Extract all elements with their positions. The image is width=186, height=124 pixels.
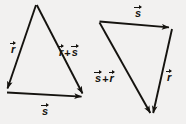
plus-operator: +: [101, 74, 109, 85]
glyph-r: r: [110, 73, 114, 84]
vector-arrow-symbol-s: s: [72, 44, 78, 58]
glyph-s: s: [42, 106, 48, 117]
right-vector-s-plus-r-line: [100, 23, 151, 114]
glyph-r: r: [11, 44, 15, 55]
right-triangle-group: [100, 22, 173, 114]
right-label-vector-r: r: [167, 69, 171, 83]
glyph-s: s: [72, 47, 78, 58]
vector-diagram-canvas: [0, 0, 186, 124]
left-label-vector-r-plus-s: r+s: [59, 44, 78, 58]
right-vector-s-line: [100, 22, 170, 28]
right-label-vector-s-plus-r: s+r: [95, 70, 114, 84]
vector-arrow-symbol-r: r: [167, 69, 171, 83]
left-label-vector-s: s: [42, 103, 48, 117]
glyph-r: r: [167, 72, 171, 83]
glyph-s: s: [135, 8, 141, 19]
vector-arrow-symbol-s: s: [42, 103, 48, 117]
left-label-vector-r: r: [11, 41, 15, 55]
vector-arrow-symbol-r: r: [11, 41, 15, 55]
vector-diagram-figure: r r+s s s s+r r: [0, 0, 186, 124]
left-vector-s-line: [7, 93, 82, 97]
vector-arrow-symbol-r: r: [110, 70, 114, 84]
plus-operator: +: [63, 48, 71, 59]
right-label-vector-s: s: [135, 5, 141, 19]
vector-arrow-symbol-s: s: [135, 5, 141, 19]
